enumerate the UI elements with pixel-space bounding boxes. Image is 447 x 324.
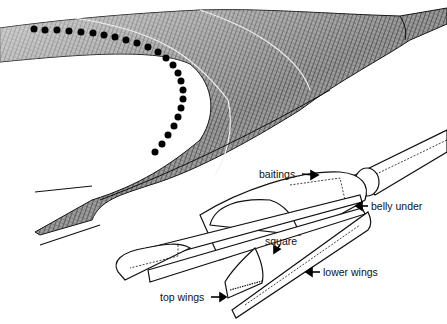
exploded-panels: [116, 130, 447, 318]
label-square: square: [265, 236, 297, 247]
arrow-top-wings: [211, 293, 226, 301]
net-illustration: [0, 0, 447, 324]
label-belly-under: belly under: [371, 201, 422, 212]
label-top-wings: top wings: [160, 292, 204, 303]
trawl-net-diagram: baitings belly under square lower wings …: [0, 0, 447, 324]
label-baitings: baitings: [259, 169, 295, 180]
label-lower-wings: lower wings: [323, 267, 378, 278]
